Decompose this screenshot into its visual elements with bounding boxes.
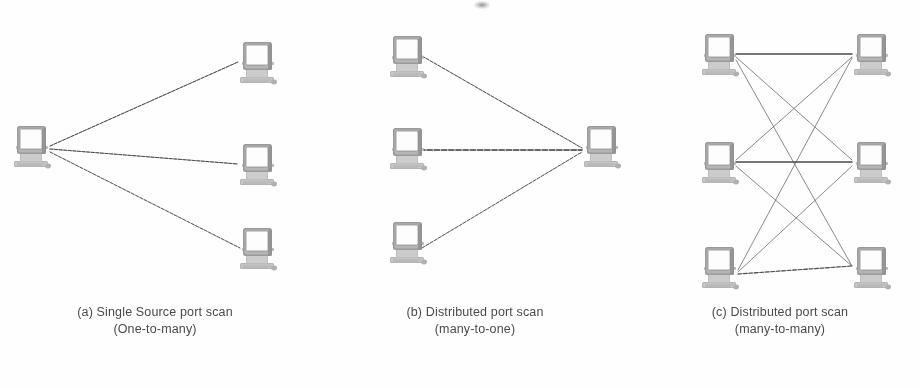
panel-c-caption-line2: (many-to-many) [640, 321, 920, 338]
computer-monitor-icon [388, 218, 430, 268]
computer-monitor-icon [238, 38, 280, 88]
port-scan-figure: (a) Single Source port scan (One-to-many… [0, 0, 920, 388]
edge-s3-v3-base [738, 266, 852, 274]
edge-s3-v2 [738, 166, 852, 272]
computer-monitor-icon [852, 138, 894, 188]
panel-b-caption: (b) Distributed port scan (many-to-one) [310, 304, 640, 338]
computer-monitor-icon [700, 138, 742, 188]
edge-scanner-3-to-victim-base [422, 152, 582, 248]
node-source-host [12, 122, 54, 172]
panel-a-caption-line2: (One-to-many) [0, 321, 310, 338]
node-scanner-host-1 [700, 30, 742, 80]
node-target-host-3 [238, 224, 280, 274]
node-scanner-host-1 [388, 32, 430, 82]
computer-monitor-icon [238, 140, 280, 190]
node-scanner-host-2 [700, 138, 742, 188]
panel-a-caption-line1: (a) Single Source port scan [0, 304, 310, 321]
node-target-host-2 [238, 140, 280, 190]
computer-monitor-icon [238, 224, 280, 274]
node-victim-host [582, 122, 624, 172]
panel-c-caption-line1: (c) Distributed port scan [640, 304, 920, 321]
panel-c-caption: (c) Distributed port scan (many-to-many) [640, 304, 920, 338]
panel-c-diagram [640, 0, 920, 300]
computer-monitor-icon [388, 32, 430, 82]
panel-b-caption-line2: (many-to-one) [310, 321, 640, 338]
edge-s2-v3 [736, 166, 852, 266]
edge-scanner-1-to-victim-base [422, 56, 582, 148]
node-scanner-host-3 [388, 218, 430, 268]
panel-single-source-port-scan: (a) Single Source port scan (One-to-many… [0, 0, 310, 388]
panel-b-caption-line1: (b) Distributed port scan [310, 304, 640, 321]
computer-monitor-icon [852, 243, 894, 293]
node-scanner-host-3 [700, 243, 742, 293]
computer-monitor-icon [700, 30, 742, 80]
node-victim-host-3 [852, 243, 894, 293]
node-victim-host-1 [852, 30, 894, 80]
computer-monitor-icon [852, 30, 894, 80]
node-target-host-1 [238, 38, 280, 88]
edge-source-to-target-3-base [50, 152, 240, 248]
panel-a-diagram [0, 0, 310, 300]
panel-b-diagram [310, 0, 640, 300]
computer-monitor-icon [582, 122, 624, 172]
node-victim-host-2 [852, 138, 894, 188]
edge-s3-v1 [738, 58, 852, 270]
panel-a-caption: (a) Single Source port scan (One-to-many… [0, 304, 310, 338]
computer-monitor-icon [388, 124, 430, 174]
node-scanner-host-2 [388, 124, 430, 174]
computer-monitor-icon [12, 122, 54, 172]
edge-source-to-target-1-base [50, 62, 238, 146]
panel-distributed-many-to-one: (b) Distributed port scan (many-to-one) [310, 0, 640, 388]
computer-monitor-icon [700, 243, 742, 293]
edge-source-to-target-2-base [50, 149, 238, 164]
panel-distributed-many-to-many: (c) Distributed port scan (many-to-many) [640, 0, 920, 388]
